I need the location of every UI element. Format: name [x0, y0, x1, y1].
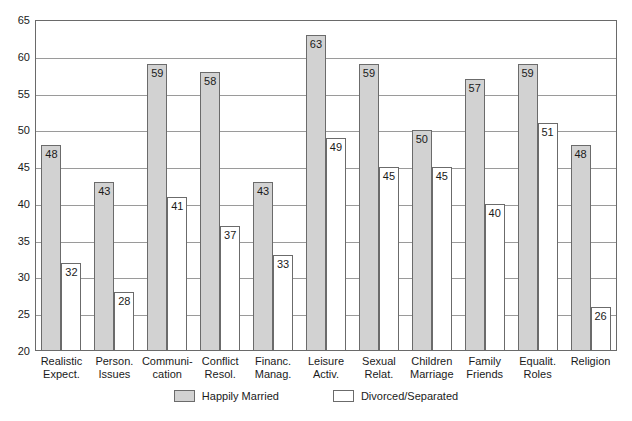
bar-value-label: 45: [433, 170, 451, 182]
bar-group: 4826: [564, 20, 617, 351]
bar: 59: [518, 64, 538, 351]
bar-value-label: 45: [380, 170, 398, 182]
bar-value-label: 59: [360, 67, 378, 79]
bar: 33: [273, 255, 293, 351]
bar-value-label: 40: [486, 207, 504, 219]
bar: 45: [432, 167, 452, 351]
bar-value-label: 33: [274, 258, 292, 270]
bar: 59: [147, 64, 167, 351]
bar: 59: [359, 64, 379, 351]
bar: 37: [220, 226, 240, 351]
bar-group: 4333: [247, 20, 300, 351]
bar: 45: [379, 167, 399, 351]
bar-value-label: 48: [42, 148, 60, 160]
x-axis-label: Communi-cation: [141, 355, 194, 381]
bar-value-label: 32: [62, 266, 80, 278]
bar-value-label: 63: [307, 38, 325, 50]
bar-group: 5951: [511, 20, 564, 351]
bar: 49: [326, 138, 346, 351]
y-tick-label-40: 40: [4, 198, 30, 209]
bar: 26: [591, 307, 611, 351]
bar: 63: [306, 35, 326, 351]
bar-group: 6349: [300, 20, 353, 351]
x-axis-label: Financ.Manag.: [247, 355, 300, 381]
bar-value-label: 43: [95, 185, 113, 197]
bar: 58: [200, 72, 220, 352]
bar-groups: 4832432859415837433363495945504557405951…: [35, 20, 617, 351]
bar: 41: [167, 197, 187, 351]
bar-value-label: 51: [539, 126, 557, 138]
bar-group: 5941: [141, 20, 194, 351]
x-axis-label: Equalit.Roles: [511, 355, 564, 381]
legend-item[interactable]: Happily Married: [174, 390, 279, 402]
bar-value-label: 57: [466, 82, 484, 94]
bar: 51: [538, 123, 558, 351]
bar-group: 4832: [35, 20, 88, 351]
bar: 48: [41, 145, 61, 351]
y-tick-label-30: 30: [4, 272, 30, 283]
y-tick-label-65: 65: [4, 15, 30, 26]
y-tick-label-60: 60: [4, 51, 30, 62]
bar-value-label: 37: [221, 229, 239, 241]
legend-item[interactable]: Divorced/Separated: [333, 390, 458, 402]
y-tick-label-35: 35: [4, 235, 30, 246]
bar-value-label: 41: [168, 200, 186, 212]
bar-group: 5045: [405, 20, 458, 351]
bar-value-label: 26: [592, 310, 610, 322]
y-tick-label-55: 55: [4, 88, 30, 99]
x-axis-label: Person.Issues: [88, 355, 141, 381]
bar-value-label: 59: [519, 67, 537, 79]
x-axis-labels: RealisticExpect.Person.IssuesCommuni-cat…: [35, 355, 617, 381]
bar-value-label: 59: [148, 67, 166, 79]
x-axis-label: Religion: [564, 355, 617, 381]
legend-label: Divorced/Separated: [361, 390, 458, 402]
x-axis-label: FamilyFriends: [458, 355, 511, 381]
x-axis-label: SexualRelat.: [352, 355, 405, 381]
x-axis-label: RealisticExpect.: [35, 355, 88, 381]
bar: 50: [412, 130, 432, 351]
y-tick-label-45: 45: [4, 162, 30, 173]
bar: 43: [253, 182, 273, 351]
bar: 43: [94, 182, 114, 351]
bar-value-label: 50: [413, 133, 431, 145]
x-axis-label: ConflictResol.: [194, 355, 247, 381]
bar-group: 5945: [352, 20, 405, 351]
bar-value-label: 58: [201, 75, 219, 87]
bar: 40: [485, 204, 505, 351]
legend-swatch: [174, 390, 195, 402]
y-axis: 20253035404550556065: [0, 20, 30, 351]
bar-value-label: 28: [115, 295, 133, 307]
bar: 32: [61, 263, 81, 351]
bar: 28: [114, 292, 134, 351]
chart-legend: Happily MarriedDivorced/Separated: [0, 390, 632, 402]
grouped-bar-chart: 20253035404550556065 4832432859415837433…: [0, 0, 632, 421]
bar-group: 5740: [458, 20, 511, 351]
x-axis-label: LeisureActiv.: [300, 355, 353, 381]
bar: 48: [571, 145, 591, 351]
legend-swatch: [333, 390, 354, 402]
bar-value-label: 48: [572, 148, 590, 160]
y-tick-label-25: 25: [4, 309, 30, 320]
y-tick-label-20: 20: [4, 346, 30, 357]
x-axis-label: ChildrenMarriage: [405, 355, 458, 381]
bar-group: 4328: [88, 20, 141, 351]
bar-value-label: 43: [254, 185, 272, 197]
bar-value-label: 49: [327, 141, 345, 153]
bar-group: 5837: [194, 20, 247, 351]
y-tick-label-50: 50: [4, 125, 30, 136]
bar: 57: [465, 79, 485, 351]
legend-label: Happily Married: [202, 390, 279, 402]
